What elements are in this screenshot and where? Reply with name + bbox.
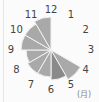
wedges-group [21,17,80,80]
month-label-1: 1 [68,9,74,20]
unit-label: (月) [77,90,91,99]
month-label-12: 12 [45,4,58,15]
month-label-2: 2 [82,24,88,35]
month-label-8: 8 [13,64,19,75]
month-label-4: 4 [82,64,88,75]
month-label-3: 3 [88,44,94,55]
month-label-10: 10 [10,24,23,35]
month-label-6: 6 [48,84,54,95]
month-label-9: 9 [8,44,14,55]
polar-area-chart: 123456789101112 (月) [0,0,99,102]
month-label-5: 5 [68,79,74,90]
month-label-7: 7 [28,79,34,90]
month-label-11: 11 [25,9,38,20]
